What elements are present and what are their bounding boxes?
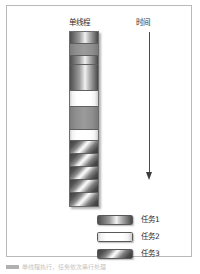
timeline-segment-t3 <box>70 167 98 180</box>
timeline-segment-t3 <box>70 193 98 206</box>
time-arrow-icon <box>145 32 154 180</box>
legend: 任务1任务2任务3 <box>97 212 175 263</box>
time-column-label: 时间 <box>136 18 150 28</box>
figure-frame: 单线程 时间 任务1任务2任务3 <box>6 5 192 257</box>
legend-label: 任务3 <box>141 249 160 259</box>
timeline-segment-t2 <box>70 130 98 141</box>
legend-swatch-t1 <box>97 215 133 225</box>
caption-marker-icon <box>6 265 19 269</box>
timeline-segment-t1 <box>70 32 98 44</box>
timeline-segment-t1 <box>70 65 98 91</box>
timeline-segment-t1 <box>70 56 98 65</box>
caption-text: 单线程执行，任务依次串行处理 <box>22 263 106 271</box>
legend-label: 任务2 <box>141 232 160 242</box>
time-arrow-shaft <box>149 32 150 173</box>
timeline-segment-t3 <box>70 154 98 167</box>
single-thread-timeline-bar <box>69 31 99 207</box>
thread-column-label: 单线程 <box>69 18 91 28</box>
timeline-segment-idle <box>70 107 98 130</box>
timeline-segment-idle <box>70 44 98 56</box>
legend-row: 任务3 <box>97 246 175 261</box>
figure-caption: 单线程执行，任务依次串行处理 <box>6 262 194 272</box>
legend-label: 任务1 <box>141 215 160 225</box>
timeline-segment-t3 <box>70 180 98 193</box>
legend-row: 任务2 <box>97 229 175 244</box>
legend-row: 任务1 <box>97 212 175 227</box>
legend-swatch-t2 <box>97 232 133 242</box>
timeline-segment-t3 <box>70 141 98 154</box>
time-arrow-head <box>146 172 152 180</box>
timeline-segment-t2 <box>70 91 98 107</box>
legend-swatch-t3 <box>97 249 133 259</box>
figure-root: 单线程 时间 任务1任务2任务3 单线程执行，任务依次串行处理 <box>0 0 200 274</box>
